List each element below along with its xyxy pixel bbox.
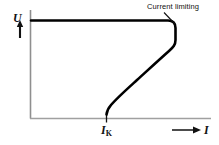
current-limiting-annotation: Current limiting [147, 2, 199, 11]
x-axis-arrow-icon [172, 127, 201, 134]
annotation-leader-line [164, 13, 175, 25]
ui-characteristic-figure: U I IK Current limiting [0, 0, 219, 145]
knee-point-subscript: K [106, 129, 112, 138]
knee-point-label: IK [101, 124, 112, 138]
characteristic-curve [31, 21, 176, 115]
x-axis-label: I [204, 124, 209, 136]
y-axis-label: U [13, 12, 22, 24]
